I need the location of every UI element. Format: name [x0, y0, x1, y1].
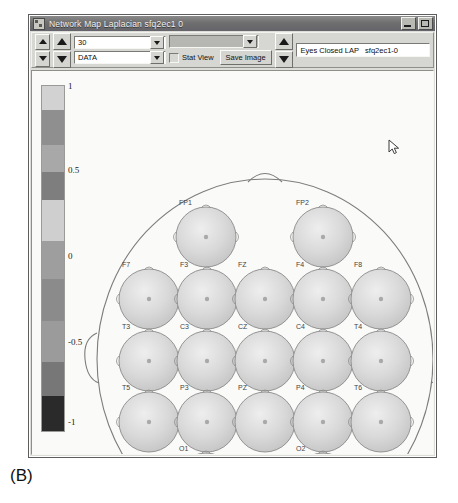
- nav-up-button[interactable]: [275, 33, 293, 50]
- electrode-cz[interactable]: CZ: [233, 323, 298, 391]
- nav-spinner: [275, 33, 293, 68]
- center-dot-icon: [263, 297, 267, 301]
- center-dot-icon: [321, 235, 325, 239]
- triangle-down-icon: [39, 56, 47, 61]
- electrode-f8[interactable]: F8: [349, 261, 414, 329]
- maximize-button[interactable]: [418, 17, 433, 30]
- save-image-button[interactable]: Save Image: [220, 50, 272, 65]
- spinner-down-large-button[interactable]: [53, 51, 71, 68]
- title-bar[interactable]: Network Map Laplacian sfq2ec1 0: [30, 16, 435, 31]
- electrode-fp1[interactable]: FP1: [174, 199, 239, 267]
- electrode-label: PZ: [238, 384, 248, 391]
- electrode-pz[interactable]: PZ: [233, 384, 298, 452]
- electrode-label: T5: [122, 384, 130, 391]
- status-text: Eyes Closed LAP sfq2ec1-0: [301, 46, 398, 55]
- spinner-up-small-button[interactable]: [35, 34, 50, 50]
- triangle-down-icon: [154, 41, 160, 45]
- electrode-c3[interactable]: C3: [175, 323, 240, 391]
- status-field[interactable]: Eyes Closed LAP sfq2ec1-0: [296, 43, 430, 57]
- triangle-down-icon: [279, 56, 289, 63]
- nose-marker: [248, 174, 282, 183]
- electrode-label: F4: [296, 261, 304, 268]
- electrode-label: O2: [296, 445, 305, 452]
- chevron-down-icon[interactable]: [243, 35, 257, 48]
- figure-caption: (B): [10, 466, 33, 486]
- network-map-window: Network Map Laplacian sfq2ec1 0: [28, 14, 437, 458]
- electrode-label: CZ: [238, 323, 248, 330]
- electrode-label: P3: [180, 384, 189, 391]
- electrode-label: P4: [296, 384, 305, 391]
- spinner-up-large-button[interactable]: [53, 33, 71, 50]
- mode-combo-value: DATA: [75, 52, 150, 63]
- disabled-combo[interactable]: [169, 35, 259, 48]
- center-dot-icon: [147, 297, 151, 301]
- center-dot-icon: [321, 420, 325, 424]
- electrode-f7[interactable]: F7: [117, 261, 182, 329]
- triangle-up-icon: [57, 38, 67, 45]
- electrode-t5[interactable]: T5: [117, 384, 182, 452]
- nav-down-button[interactable]: [275, 51, 293, 68]
- electrode-fp2[interactable]: FP2: [291, 199, 356, 267]
- electrode-label: FP2: [296, 199, 309, 206]
- spinner-down-small-button[interactable]: [35, 51, 50, 67]
- center-dot-icon: [379, 297, 383, 301]
- electrode-t6[interactable]: T6: [349, 384, 414, 452]
- stat-view-checkbox[interactable]: [169, 53, 179, 63]
- electrode-c4[interactable]: C4: [291, 323, 356, 391]
- left-combo-group: 30 DATA: [74, 36, 166, 64]
- right-control-group: Stat View Save Image: [169, 35, 272, 65]
- electrode-t4[interactable]: T4: [349, 323, 414, 391]
- electrode-label: T4: [354, 323, 362, 330]
- center-dot-icon: [379, 359, 383, 363]
- mouse-pointer-icon: [388, 139, 402, 157]
- stat-view-label: Stat View: [182, 53, 214, 62]
- triangle-down-icon: [57, 56, 67, 63]
- electrode-fz[interactable]: FZ: [233, 261, 298, 329]
- center-dot-icon: [204, 235, 208, 239]
- electrode-f4[interactable]: F4: [291, 261, 356, 329]
- center-dot-icon: [263, 420, 267, 424]
- stat-view-checkbox-row[interactable]: Stat View: [169, 53, 214, 63]
- electrode-p3[interactable]: P3: [175, 384, 240, 452]
- electrode-label: O1: [179, 445, 188, 452]
- chevron-down-icon[interactable]: [150, 36, 164, 49]
- chevron-down-icon[interactable]: [150, 51, 164, 64]
- center-dot-icon: [321, 359, 325, 363]
- electrode-label: FP1: [179, 199, 192, 206]
- minimize-button[interactable]: [401, 17, 416, 30]
- electrode-p4[interactable]: P4: [291, 384, 356, 452]
- electrode-label: T6: [354, 384, 362, 391]
- caption-button-group: [401, 17, 433, 30]
- triangle-up-icon: [39, 39, 47, 44]
- electrode-label: C3: [180, 323, 189, 330]
- mini-head-circle[interactable]: [293, 453, 353, 455]
- center-dot-icon: [147, 420, 151, 424]
- center-dot-icon: [321, 297, 325, 301]
- electrode-t3[interactable]: T3: [117, 323, 182, 391]
- window-title: Network Map Laplacian sfq2ec1 0: [49, 19, 401, 29]
- electrode-label: FZ: [238, 261, 247, 268]
- electrode-label: T3: [122, 323, 130, 330]
- large-spinner: [53, 33, 71, 68]
- triangle-down-icon: [247, 40, 253, 44]
- count-combo[interactable]: 30: [74, 36, 166, 49]
- center-dot-icon: [379, 420, 383, 424]
- center-dot-icon: [205, 420, 209, 424]
- electrode-label: F7: [122, 261, 130, 268]
- electrode-label: F8: [354, 261, 362, 268]
- center-dot-icon: [263, 359, 267, 363]
- mini-head-circle[interactable]: [176, 453, 236, 455]
- head-diagram: FP1FP2F7F3FZF4F8T3C3CZC4T4T5P3PZP4T6O1O2: [32, 71, 434, 455]
- center-dot-icon: [205, 359, 209, 363]
- mode-combo[interactable]: DATA: [74, 51, 166, 64]
- electrode-f3[interactable]: F3: [175, 261, 240, 329]
- map-canvas[interactable]: 10.50-0.5-1 FP1FP2F7F3FZF4F8T3C3CZC4T4T5…: [31, 70, 434, 455]
- center-dot-icon: [147, 359, 151, 363]
- triangle-up-icon: [279, 38, 289, 45]
- toolbar: 30 DATA Stat: [31, 32, 434, 68]
- small-spinner: [35, 34, 50, 67]
- electrode-label: F3: [180, 261, 188, 268]
- triangle-down-icon: [154, 56, 160, 60]
- center-dot-icon: [205, 297, 209, 301]
- app-icon: [33, 18, 45, 30]
